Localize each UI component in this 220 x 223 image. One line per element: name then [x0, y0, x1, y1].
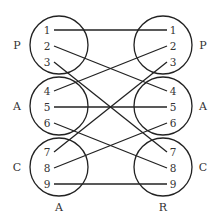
left-item-number: 9 — [44, 178, 51, 190]
left-column-bottom-label: A — [54, 201, 64, 214]
right-item-number: 1 — [170, 24, 177, 36]
right-item-number: 9 — [170, 178, 177, 190]
right-item-number: 6 — [170, 117, 177, 129]
left-group-circle-c — [30, 138, 88, 196]
right-item-number: 8 — [170, 162, 177, 174]
left-item-number: 6 — [44, 117, 51, 129]
connection-lines — [54, 30, 167, 184]
diagram-svg: P123A456C789AP123A456C789R — [0, 0, 220, 223]
left-group-label: C — [13, 161, 21, 174]
left-item-number: 7 — [44, 146, 51, 158]
right-item-number: 7 — [170, 146, 177, 158]
right-item-number: 3 — [170, 56, 177, 68]
right-group-label: C — [199, 161, 207, 174]
labels: P123A456C789AP123A456C789R — [12, 24, 208, 214]
left-item-number: 2 — [44, 40, 51, 52]
right-group-label: P — [199, 39, 207, 52]
left-group-circle-a — [30, 77, 88, 135]
right-item-number: 2 — [170, 40, 177, 52]
right-group-circle-a — [134, 77, 192, 135]
right-item-number: 5 — [170, 101, 177, 113]
right-group-label: A — [198, 100, 208, 113]
left-item-number: 5 — [44, 101, 51, 113]
left-group-label: A — [12, 100, 22, 113]
left-item-number: 4 — [44, 85, 51, 97]
left-item-number: 3 — [44, 56, 51, 68]
right-item-number: 4 — [170, 85, 177, 97]
mapping-diagram: P123A456C789AP123A456C789R — [0, 0, 220, 223]
left-group-label: P — [13, 39, 21, 52]
left-item-number: 8 — [44, 162, 51, 174]
right-column-bottom-label: R — [159, 201, 168, 214]
left-item-number: 1 — [44, 24, 51, 36]
